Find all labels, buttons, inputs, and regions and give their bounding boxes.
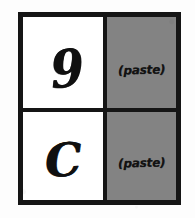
paste-annotation-top: (paste): [118, 63, 166, 76]
paste-annotation-bottom: (paste): [118, 156, 166, 169]
scanned-page-canvas: 9 (paste) C (paste): [0, 0, 195, 218]
handwritten-character-9: 9: [49, 41, 86, 95]
grid-cell-bottom-right[interactable]: (paste): [107, 112, 176, 200]
grid-cell-top-right[interactable]: (paste): [107, 17, 176, 112]
handwritten-character-c: C: [44, 136, 83, 184]
hand-drawn-grid-frame: 9 (paste) C (paste): [18, 12, 181, 205]
grid-cell-bottom-left[interactable]: C: [23, 112, 107, 200]
grid-cell-top-left[interactable]: 9: [23, 17, 107, 112]
